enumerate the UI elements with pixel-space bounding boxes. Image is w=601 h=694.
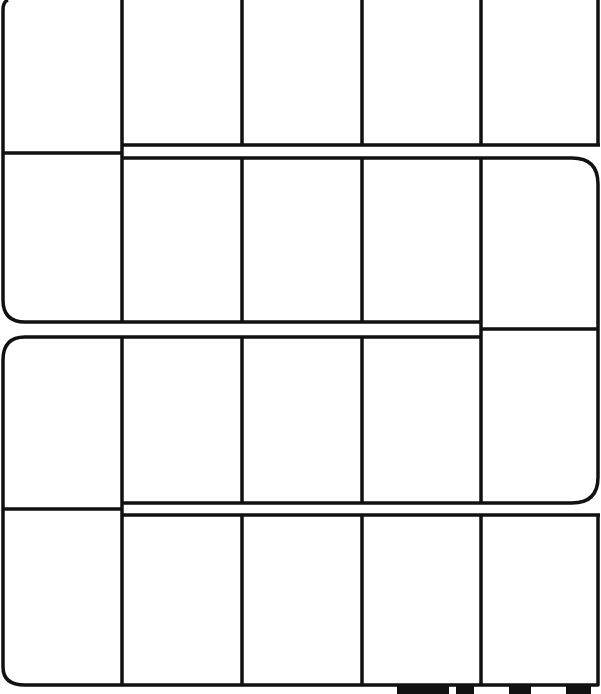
board-cell-r2c4[interactable]	[364, 160, 479, 320]
board-cell-r4c3[interactable]	[244, 517, 360, 683]
board-cell-r1c5[interactable]	[483, 0, 596, 143]
board-cell-r3c2[interactable]	[124, 339, 240, 501]
board-cell-r3c5[interactable]	[483, 331, 596, 501]
board-cell-r2c2[interactable]	[124, 160, 240, 320]
board-cell-r3c3[interactable]	[244, 339, 360, 501]
board-cell-r1c4[interactable]	[364, 0, 479, 143]
board-cell-r4c1[interactable]	[5, 511, 120, 683]
board-cell-r3c4[interactable]	[364, 339, 479, 501]
board-cell-r4c2[interactable]	[124, 517, 240, 683]
board-cell-r3c1[interactable]	[5, 339, 120, 507]
board-cells	[5, 0, 596, 683]
board-cell-r2c1[interactable]	[5, 155, 120, 320]
board-cell-r4c4[interactable]	[364, 517, 479, 683]
board-cell-r1c1[interactable]	[5, 0, 120, 151]
board-cell-r1c2[interactable]	[124, 0, 240, 143]
board-cell-r2c3[interactable]	[244, 160, 360, 320]
board-cell-r4c5[interactable]	[483, 517, 596, 683]
board-cell-r2c5[interactable]	[483, 160, 596, 327]
board-cell-r1c3[interactable]	[244, 0, 360, 143]
game-board	[0, 0, 601, 694]
